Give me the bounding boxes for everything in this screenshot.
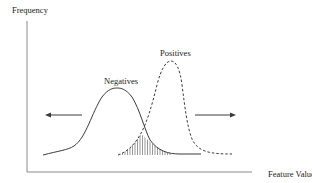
distribution-diagram: Frequency Feature Value Negatives Positi…	[0, 0, 312, 183]
left-arrow-icon	[45, 113, 82, 118]
diagram-canvas: Frequency Feature Value Negatives Positi…	[0, 0, 312, 183]
right-arrow-icon	[195, 113, 236, 118]
negatives-curve	[43, 88, 201, 155]
x-axis-label: Feature Value	[268, 169, 312, 179]
positives-label: Positives	[160, 48, 191, 58]
negatives-label: Negatives	[104, 76, 138, 86]
y-axis-label: Frequency	[12, 5, 49, 15]
